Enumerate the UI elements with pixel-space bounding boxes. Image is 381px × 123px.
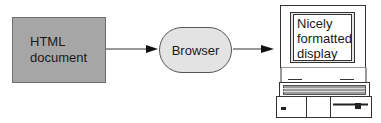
arrow-browser-to-display (233, 45, 274, 53)
display-label-line1: Nicely (297, 16, 352, 31)
browser-label: Browser (159, 27, 232, 73)
html-document-label-line2: document (30, 50, 87, 66)
html-document-label: HTML document (30, 34, 87, 66)
display-label: Nicely formatted display (297, 16, 352, 61)
arrow-document-to-browser (106, 45, 158, 53)
display-label-line2: formatted (297, 31, 352, 46)
display-label-line3: display (297, 46, 352, 61)
html-document-label-line1: HTML (30, 34, 87, 50)
